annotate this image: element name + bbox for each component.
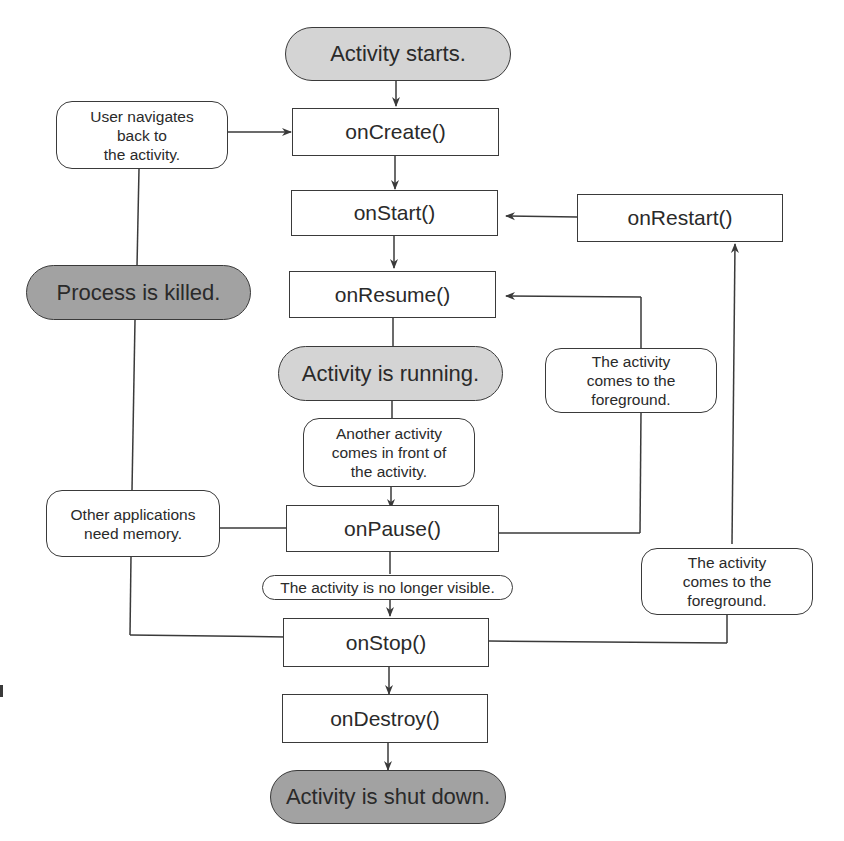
callback-onstop: onStop()	[283, 618, 489, 667]
condition-label: Another activity comes in front of the a…	[332, 424, 447, 481]
state-activity-running: Activity is running.	[278, 346, 503, 401]
callback-onresume: onResume()	[289, 271, 496, 318]
callback-label: onStart()	[354, 201, 436, 225]
condition-no-longer-visible: The activity is no longer visible.	[262, 575, 513, 600]
condition-label: The activity comes to the foreground.	[683, 553, 772, 610]
condition-user-navigates-back: User navigates back to the activity.	[56, 101, 228, 169]
callback-oncreate: onCreate()	[292, 108, 499, 156]
condition-foreground-to-restart: The activity comes to the foreground.	[641, 548, 813, 615]
callback-label: onRestart()	[627, 206, 732, 230]
condition-label: The activity comes to the foreground.	[587, 352, 676, 409]
activity-lifecycle-diagram: Activity starts. Activity is running. Pr…	[0, 0, 844, 841]
condition-label: User navigates back to the activity.	[90, 107, 193, 164]
condition-another-activity-in-front: Another activity comes in front of the a…	[303, 418, 475, 487]
condition-label: Other applications need memory.	[71, 505, 196, 543]
condition-label: The activity is no longer visible.	[280, 579, 495, 597]
state-label: Activity is running.	[302, 361, 479, 387]
callback-ondestroy: onDestroy()	[282, 694, 488, 743]
state-process-killed: Process is killed.	[26, 265, 251, 320]
callback-label: onCreate()	[345, 120, 445, 144]
callback-label: onResume()	[335, 283, 451, 307]
callback-onpause: onPause()	[286, 505, 499, 552]
condition-foreground-to-resume: The activity comes to the foreground.	[545, 348, 717, 413]
condition-other-apps-need-memory: Other applications need memory.	[46, 490, 220, 557]
state-label: Process is killed.	[57, 280, 221, 306]
callback-label: onStop()	[346, 631, 427, 655]
callback-onrestart: onRestart()	[577, 194, 783, 242]
scan-edge-mark	[0, 685, 3, 697]
state-label: Activity is shut down.	[286, 784, 490, 810]
state-activity-starts: Activity starts.	[285, 27, 511, 81]
callback-label: onPause()	[344, 517, 441, 541]
callback-onstart: onStart()	[291, 190, 498, 236]
state-label: Activity starts.	[330, 41, 466, 67]
callback-label: onDestroy()	[330, 707, 440, 731]
state-activity-shut-down: Activity is shut down.	[270, 770, 506, 824]
